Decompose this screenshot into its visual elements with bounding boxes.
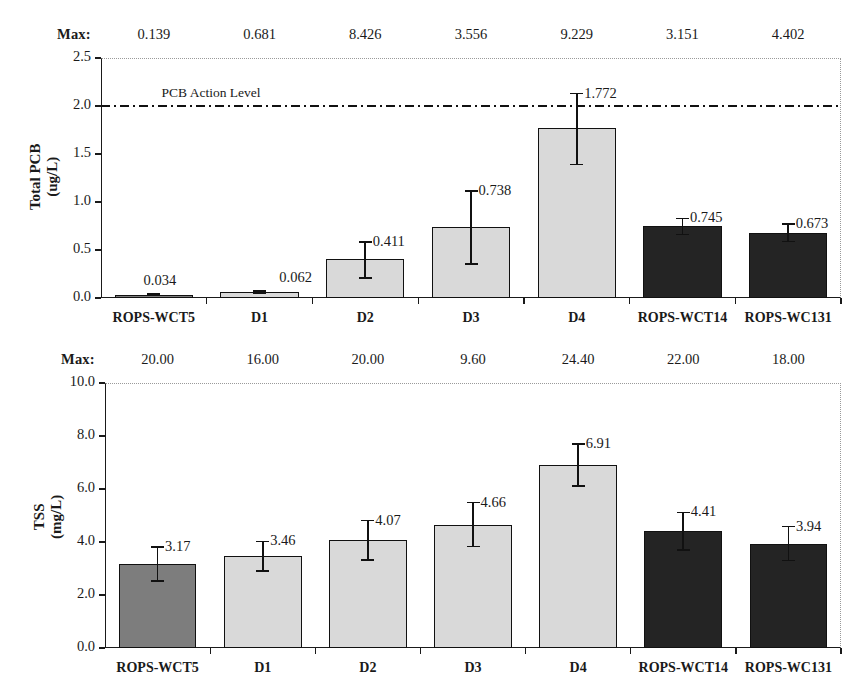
error-bar-cap-lower [570,164,583,166]
value-label-d2: 0.411 [373,233,405,250]
error-bar-cap-lower [465,263,478,265]
x-axis-tick-mark [420,648,421,654]
y-axis-tick-mark [99,647,105,648]
y-axis-tick-mark [95,201,101,202]
error-bar-stem [682,218,684,234]
x-axis-tick-mark [629,298,630,304]
error-bar-cap-upper [677,512,690,514]
x-axis-tick-mark [735,648,736,654]
max-value-d2: 20.00 [318,351,418,368]
max-row-total-pcb: Max: 0.1390.6818.4263.5569.2293.1514.402 [0,26,867,48]
pcb-action-level-line [101,105,841,107]
error-bar-cap-lower [256,570,269,572]
max-value-d3: 9.60 [423,351,523,368]
x-axis-tick-mark [206,298,207,304]
y-axis-label-line1: Total PCB [27,144,43,211]
y-axis-tick-label: 0.0 [43,288,91,305]
y-axis-tick-label: 2.0 [47,585,95,602]
bar-d4 [539,465,617,648]
x-axis-tick-mark [735,298,736,304]
y-axis-tick-mark [99,382,105,383]
value-label-d2: 4.07 [375,512,400,529]
error-bar-stem [787,224,789,241]
max-value-rops-wc131: 4.402 [738,26,838,43]
y-axis-tick-mark [95,57,101,58]
value-label-d1: 3.46 [270,532,295,549]
y-axis-tick-label: 1.5 [43,144,91,161]
error-bar-cap-upper [570,93,583,95]
error-bar-cap-upper [782,223,795,225]
max-value-d3: 3.556 [421,26,521,43]
x-axis-label-rops-wc131: ROPS-WC131 [718,310,858,326]
x-axis-tick-mark [523,298,524,304]
y-axis-tick-mark [99,435,105,436]
y-axis-tick-mark [99,488,105,489]
error-bar-cap-lower [782,241,795,243]
chart-panel-total-pcb: Max: 0.1390.6818.4263.5569.2293.1514.402… [0,0,867,340]
error-bar-cap-upper [361,520,374,522]
x-axis-tick-mark [525,648,526,654]
max-value-rops-wct14: 22.00 [633,351,733,368]
value-label-rops-wct5: 0.034 [110,272,210,289]
chart-panel-tss: Max: 20.0016.0020.009.6024.4022.0018.00 … [0,340,867,699]
y-axis-tick-label: 2.5 [43,48,91,65]
x-axis-label-rops-wc131: ROPS-WC131 [718,660,858,676]
error-bar-cap-lower [361,559,374,561]
y-axis-tick-label: 10.0 [47,373,95,390]
value-label-d3: 0.738 [479,182,512,199]
value-label-rops-wct5: 3.17 [165,538,190,555]
error-bar-cap-upper [253,290,266,292]
error-bar-stem [262,541,264,571]
value-label-d4: 6.91 [586,435,611,452]
error-bar-cap-upper [782,526,795,528]
max-row-label: Max: [61,351,95,368]
max-value-d4: 9.229 [527,26,627,43]
max-value-rops-wct5: 0.139 [104,26,204,43]
max-value-d2: 8.426 [315,26,415,43]
value-label-d3: 4.66 [481,494,506,511]
error-bar-cap-lower [151,580,164,582]
y-axis-tick-label: 0.0 [47,638,95,655]
error-bar-cap-lower [147,295,160,297]
y-axis-tick-mark [95,153,101,154]
error-bar-cap-lower [572,485,585,487]
max-row-label: Max: [57,26,91,43]
error-bar-stem [788,527,790,561]
y-axis-tick-mark [99,541,105,542]
x-axis-tick-mark [630,648,631,654]
value-label-rops-wct14: 4.41 [691,503,716,520]
max-value-rops-wct5: 20.00 [108,351,208,368]
error-bar-cap-upper [467,502,480,504]
error-bar-stem [157,547,159,581]
y-axis-tick-mark [95,297,101,298]
pcb-action-level-line-dashes [101,105,841,107]
y-axis-label-total-pcb: Total PCB (ug/L) [27,97,61,257]
error-bar-cap-upper [572,443,585,445]
pcb-action-level-label: PCB Action Level [111,85,311,101]
error-bar-cap-upper [359,241,372,243]
value-label-rops-wc131: 3.94 [796,518,821,535]
error-bar-cap-lower [467,546,480,548]
error-bar-cap-lower [253,292,266,294]
error-bar-cap-lower [782,560,795,562]
error-bar-stem [364,242,366,278]
y-axis-tick-label: 4.0 [47,532,95,549]
bar-rops-wc131 [749,233,827,298]
y-axis-label-line1: TSS [31,503,47,530]
figure-root: Max: 0.1390.6818.4263.5569.2293.1514.402… [0,0,867,699]
value-label-rops-wc131: 0.673 [796,215,829,232]
x-axis-tick-mark [210,648,211,654]
bar-rops-wct14 [643,226,721,298]
error-bar-cap-upper [151,546,164,548]
y-axis-label-line2: (ug/L) [44,157,60,197]
error-bar-stem [470,191,472,264]
error-bar-stem [577,444,579,486]
x-axis-tick-mark [840,648,841,654]
y-axis-tick-label: 2.0 [43,96,91,113]
error-bar-stem [367,521,369,560]
max-value-d1: 0.681 [210,26,310,43]
error-bar-cap-upper [256,541,269,543]
x-axis-tick-mark [315,648,316,654]
y-axis-tick-mark [95,249,101,250]
error-bar-cap-lower [676,234,689,236]
